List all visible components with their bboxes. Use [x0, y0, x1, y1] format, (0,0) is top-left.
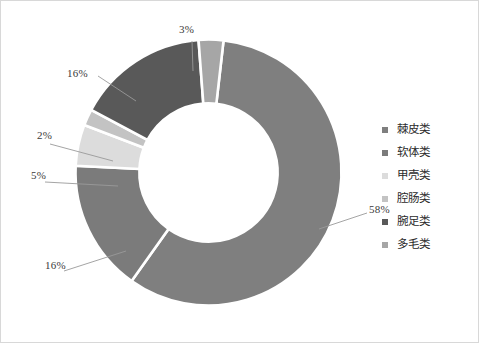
legend-item-腔肠类[interactable]: 腔肠类 [382, 188, 466, 210]
legend-swatch-icon [382, 127, 388, 133]
chart-legend: 棘皮类 软体类 甲壳类 腔肠类 腕足类 多毛类 [382, 119, 466, 257]
legend-swatch-icon [382, 173, 388, 179]
legend-swatch-icon [382, 219, 388, 225]
legend-swatch-icon [382, 196, 388, 202]
legend-label: 甲壳类 [397, 170, 430, 182]
legend-item-甲壳类[interactable]: 甲壳类 [382, 165, 466, 187]
legend-label: 腕足类 [397, 216, 430, 228]
legend-label: 多毛类 [397, 239, 430, 251]
legend-swatch-icon [382, 242, 388, 248]
legend-item-软体类[interactable]: 软体类 [382, 142, 466, 164]
legend-label: 棘皮类 [397, 124, 430, 136]
data-label-2-percent: 2% [37, 129, 52, 141]
data-label-5-percent: 5% [31, 169, 46, 181]
data-label-16-percent-upper: 16% [67, 67, 88, 79]
legend-label: 软体类 [397, 147, 430, 159]
legend-item-棘皮类[interactable]: 棘皮类 [382, 119, 466, 141]
data-label-3-percent: 3% [179, 23, 194, 35]
legend-item-多毛类[interactable]: 多毛类 [382, 234, 466, 256]
legend-label: 腔肠类 [397, 193, 430, 205]
chart-figure: 3% 16% 2% 5% 16% 58% 棘皮类 软体类 甲壳类 腔肠类 腕足类 [0, 0, 479, 343]
legend-item-腕足类[interactable]: 腕足类 [382, 211, 466, 233]
doughnut-slices [75, 39, 341, 305]
data-label-16-percent-lower: 16% [45, 259, 66, 271]
legend-swatch-icon [382, 150, 388, 156]
